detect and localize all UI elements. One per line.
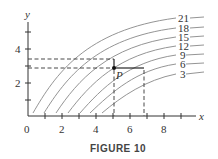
level-curve-6 xyxy=(90,64,176,113)
x-tick-label: 8 xyxy=(161,123,167,135)
y-tick-label: 4 xyxy=(15,43,21,55)
level-curve-21 xyxy=(33,18,176,113)
x-tick-label: 2 xyxy=(59,123,65,135)
x-tick-label: 0 xyxy=(24,123,30,135)
point-label: P xyxy=(115,69,123,81)
level-curves xyxy=(33,18,176,113)
x-tick-label: 6 xyxy=(127,123,133,135)
level-curve-3 xyxy=(102,74,176,113)
figure-caption: FIGURE 10 xyxy=(90,143,146,154)
y-axis-label: y xyxy=(24,8,30,20)
x-tick-label: 4 xyxy=(93,123,99,135)
curve-label-3: 3 xyxy=(180,68,186,80)
x-axis-label: x xyxy=(198,110,204,122)
y-tick-label: 2 xyxy=(15,77,21,89)
contour-figure: y x 0 2 4 6 8 2 4 P 21 18 15 12 9 6 3 FI… xyxy=(0,0,218,159)
level-curve-9 xyxy=(80,55,176,113)
